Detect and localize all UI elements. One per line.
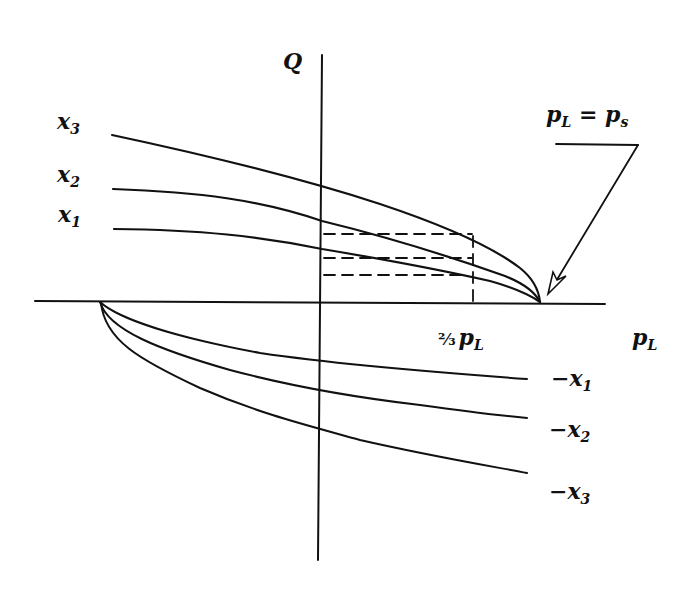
q-axis-label: Q — [283, 50, 302, 72]
label-x2: x2 — [57, 163, 80, 189]
label-neg-x1: −x1 — [551, 367, 592, 393]
label-neg-x3: −x3 — [549, 480, 590, 506]
label-x3: x3 — [57, 110, 80, 136]
two-thirds-pl-label: ⅔pL — [438, 326, 484, 352]
label-x1: x1 — [58, 203, 81, 229]
label-neg-x2: −x2 — [549, 418, 590, 444]
arrowhead-icon — [548, 272, 566, 294]
q-axis — [318, 55, 322, 560]
two-thirds-reference-lines — [324, 234, 473, 302]
pl-axis-label: pL — [632, 326, 657, 352]
valve-flow-pressure-diagram: Q pL x3 x2 x1 −x1 −x2 −x3 ⅔pL pL = ps — [0, 0, 692, 594]
pl-equals-ps-annotation: pL = ps — [546, 103, 628, 129]
curve-x2 — [113, 189, 540, 302]
ps-arrow — [552, 144, 638, 288]
